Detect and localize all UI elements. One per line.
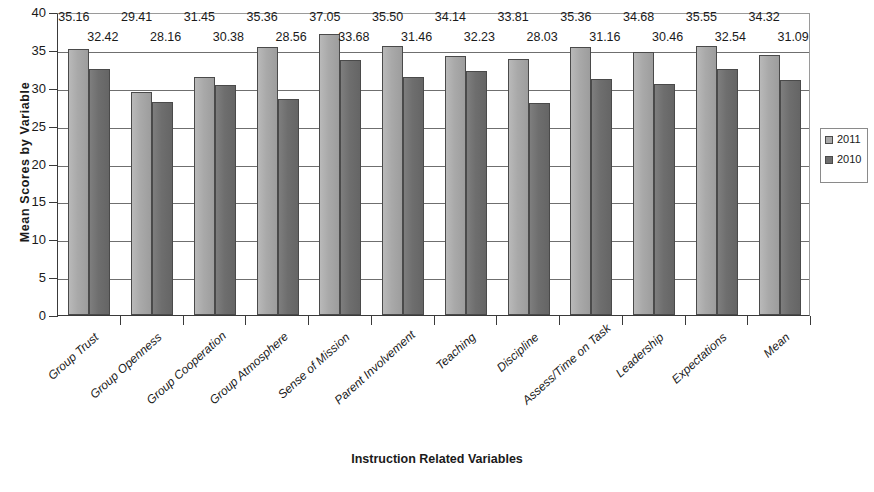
value-label: 35.36	[556, 10, 596, 24]
legend-item: 2010	[825, 154, 867, 165]
x-axis-tick	[308, 316, 309, 325]
legend-swatch-icon	[825, 156, 833, 164]
bar-2011	[759, 55, 780, 315]
legend-label: 2011	[837, 134, 861, 145]
plot-area	[57, 13, 810, 316]
bar-2010	[89, 69, 110, 315]
y-axis-tick-label: 15	[2, 194, 46, 209]
x-axis-tick	[685, 316, 686, 325]
y-axis-tick-label: 0	[2, 308, 46, 323]
y-axis-tick-label: 10	[2, 232, 46, 247]
legend-swatch-icon	[825, 136, 833, 144]
x-axis-tick	[496, 316, 497, 325]
x-axis-tick	[245, 316, 246, 325]
y-axis-tick-label: 40	[2, 5, 46, 20]
chart-legend: 20112010	[820, 128, 868, 183]
value-label: 34.68	[619, 10, 659, 24]
bar-2010	[278, 99, 299, 315]
y-axis-tick	[49, 316, 58, 317]
bar-2011	[257, 47, 278, 315]
bar-2011	[696, 46, 717, 315]
value-label: 28.03	[522, 30, 562, 44]
value-label: 30.46	[648, 30, 688, 44]
bar-2011	[633, 52, 654, 315]
bar-2010	[591, 79, 612, 315]
legend-label: 2010	[837, 154, 861, 165]
value-label: 31.45	[179, 10, 219, 24]
y-axis-tick-label: 20	[2, 157, 46, 172]
bar-2011	[131, 92, 152, 315]
value-label: 35.16	[54, 10, 94, 24]
y-axis-tick-label: 25	[2, 119, 46, 134]
bar-2010	[340, 60, 361, 315]
x-axis-tick	[183, 316, 184, 325]
bar-2011	[570, 47, 591, 315]
bar-2011	[445, 56, 466, 315]
value-label: 28.16	[146, 30, 186, 44]
bar-2010	[403, 77, 424, 315]
bar-2011	[382, 46, 403, 315]
value-label: 32.54	[710, 30, 750, 44]
x-axis-tick	[434, 316, 435, 325]
x-axis-tick	[371, 316, 372, 325]
value-label: 34.32	[744, 10, 784, 24]
bar-2011	[319, 34, 340, 315]
y-axis-tick-label: 35	[2, 43, 46, 58]
y-axis-tick-label: 30	[2, 81, 46, 96]
bar-2010	[215, 85, 236, 315]
value-label: 32.42	[83, 30, 123, 44]
legend-item: 2011	[825, 134, 867, 145]
value-label: 35.55	[681, 10, 721, 24]
value-label: 31.09	[773, 30, 813, 44]
value-label: 29.41	[117, 10, 157, 24]
bar-2010	[152, 102, 173, 315]
bar-2011	[194, 77, 215, 315]
bar-2010	[717, 69, 738, 315]
bar-2011	[508, 59, 529, 315]
value-label: 31.16	[585, 30, 625, 44]
value-label: 35.50	[368, 10, 408, 24]
value-label: 30.38	[208, 30, 248, 44]
bar-2010	[466, 71, 487, 315]
x-axis-tick	[622, 316, 623, 325]
value-label: 31.46	[397, 30, 437, 44]
bar-2010	[780, 80, 801, 316]
value-label: 34.14	[430, 10, 470, 24]
x-axis-tick	[747, 316, 748, 325]
x-axis-tick	[120, 316, 121, 325]
value-label: 32.23	[459, 30, 499, 44]
y-axis-tick-label: 5	[2, 270, 46, 285]
bar-2010	[654, 84, 675, 315]
bar-2011	[68, 49, 89, 315]
value-label: 35.36	[242, 10, 282, 24]
value-label: 28.56	[271, 30, 311, 44]
bar-chart: Mean Scores by Variable 0510152025303540…	[0, 0, 874, 492]
x-axis-tick	[810, 316, 811, 325]
x-axis-tick	[559, 316, 560, 325]
bar-2010	[529, 103, 550, 315]
value-label: 37.05	[305, 10, 345, 24]
value-label: 33.81	[493, 10, 533, 24]
value-label: 33.68	[334, 30, 374, 44]
x-axis-title: Instruction Related Variables	[0, 452, 874, 466]
